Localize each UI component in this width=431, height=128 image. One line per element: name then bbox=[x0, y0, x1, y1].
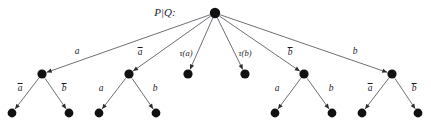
overline-action-symbol: a bbox=[138, 47, 143, 57]
transition-level1-label-4: b bbox=[288, 47, 293, 57]
level2-node-5 bbox=[328, 109, 337, 118]
transition-level1-label-5: b bbox=[353, 47, 358, 57]
transition-level2-arrowhead-3 bbox=[149, 104, 154, 109]
overline-action-symbol: b bbox=[62, 83, 67, 93]
overline-action-symbol: b bbox=[288, 47, 293, 57]
level1-node-2 bbox=[183, 69, 192, 78]
transition-level1-line-4 bbox=[219, 16, 299, 71]
transition-level2-line-4 bbox=[278, 78, 301, 109]
transition-level2-label-4: a bbox=[275, 84, 280, 94]
level1-node-0 bbox=[37, 69, 46, 78]
level2-node-3 bbox=[152, 109, 161, 118]
transition-level2-label-1: b bbox=[62, 83, 67, 93]
transition-level1-line-2 bbox=[190, 18, 213, 69]
transition-level1-line-5 bbox=[220, 15, 387, 73]
level1-node-3 bbox=[240, 69, 249, 78]
transition-level1-arrowhead-0 bbox=[47, 69, 52, 73]
transition-level1-arrowhead-4 bbox=[295, 67, 300, 72]
overline-action-symbol: a bbox=[18, 83, 23, 93]
transition-level2-label-0: a bbox=[18, 83, 23, 93]
transition-level1-line-0 bbox=[47, 15, 210, 73]
transition-level2-arrowhead-7 bbox=[411, 103, 416, 108]
transition-level1-arrowhead-5 bbox=[382, 69, 387, 73]
level2-node-4 bbox=[271, 109, 280, 118]
transition-level2-arrowhead-4 bbox=[278, 104, 283, 109]
level1-node-5 bbox=[387, 69, 396, 78]
transition-level1-line-1 bbox=[133, 16, 211, 71]
transition-level2-arrowhead-2 bbox=[102, 104, 107, 109]
transition-level1-line-3 bbox=[217, 18, 242, 70]
transition-level1-label-2: τ(a) bbox=[180, 49, 193, 58]
level2-node-0 bbox=[8, 109, 17, 118]
transition-level2-label-7: b bbox=[412, 83, 417, 93]
tree-diagram-canvas: P|Q: aaτ(a)τ(b)bbabababab bbox=[0, 0, 431, 128]
transition-level1-label-0: a bbox=[75, 47, 80, 57]
transition-level2-arrowhead-6 bbox=[365, 104, 370, 109]
level2-node-6 bbox=[358, 109, 367, 118]
transition-level1-label-3: τ(b) bbox=[239, 49, 252, 58]
transition-level2-line-5 bbox=[307, 78, 329, 109]
overline-action-symbol: b bbox=[412, 83, 417, 93]
transition-level2-label-3: b bbox=[153, 84, 158, 94]
transition-level2-arrowhead-1 bbox=[62, 104, 67, 109]
level2-node-7 bbox=[414, 109, 423, 118]
transition-level2-line-3 bbox=[132, 78, 153, 108]
root-node-0 bbox=[210, 8, 220, 18]
transition-level2-label-5: b bbox=[329, 84, 334, 94]
overline-action-symbol: a bbox=[368, 83, 373, 93]
transition-level2-arrowhead-0 bbox=[15, 104, 20, 109]
transition-level2-label-6: a bbox=[368, 83, 373, 93]
level2-node-1 bbox=[65, 109, 74, 118]
transition-level2-arrowhead-5 bbox=[324, 104, 329, 109]
level2-node-2 bbox=[95, 109, 104, 118]
tree-graphics bbox=[0, 0, 431, 128]
transition-level1-label-1: a bbox=[138, 47, 143, 57]
transition-level2-label-2: a bbox=[99, 84, 104, 94]
transition-level2-line-2 bbox=[102, 78, 126, 109]
root-process-label: P|Q: bbox=[154, 7, 175, 18]
level1-node-1 bbox=[124, 69, 133, 78]
node-layer bbox=[8, 8, 423, 118]
level1-node-4 bbox=[299, 69, 308, 78]
edge-layer bbox=[15, 15, 415, 109]
transition-level1-arrowhead-1 bbox=[133, 66, 138, 71]
